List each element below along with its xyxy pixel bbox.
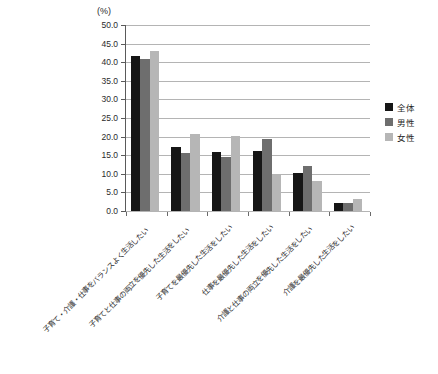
gridline	[126, 62, 370, 63]
y-axis-tick-label: 50.0	[88, 20, 118, 30]
gridline	[126, 137, 370, 138]
y-axis-tick-label: 15.0	[88, 150, 118, 160]
legend: 全体男性女性	[385, 99, 437, 144]
bar	[253, 151, 263, 211]
gridline	[126, 192, 370, 193]
x-axis-tick	[329, 212, 330, 216]
bar	[181, 153, 191, 211]
legend-color-swatch	[385, 103, 393, 111]
bar	[171, 147, 181, 211]
bar	[262, 139, 272, 211]
bar	[272, 175, 282, 211]
x-axis-tick	[289, 212, 290, 216]
bar	[303, 166, 313, 211]
y-axis-tick-label: 0.0	[88, 206, 118, 216]
legend-label: 全体	[397, 101, 415, 113]
bar	[150, 51, 160, 211]
x-axis-tick	[248, 212, 249, 216]
bar	[212, 152, 222, 211]
bar	[131, 56, 141, 211]
x-axis-tick	[207, 212, 208, 216]
x-axis-tick	[370, 212, 371, 216]
y-axis-unit-label: (%)	[97, 6, 111, 16]
bar	[190, 134, 200, 211]
legend-label: 男性	[397, 116, 415, 128]
legend-color-swatch	[385, 118, 393, 126]
y-axis-tick-label: 10.0	[88, 169, 118, 179]
gridline	[126, 44, 370, 45]
gridline	[126, 118, 370, 119]
legend-label: 女性	[397, 131, 415, 143]
y-axis-tick-label: 5.0	[88, 187, 118, 197]
x-axis-tick	[167, 212, 168, 216]
bar	[293, 173, 303, 211]
y-axis-tick-label: 20.0	[88, 132, 118, 142]
legend-item: 女性	[385, 129, 437, 144]
plot-area	[126, 25, 370, 211]
bar	[231, 136, 241, 211]
y-axis-tick-label: 35.0	[88, 76, 118, 86]
y-axis-tick-label: 45.0	[88, 39, 118, 49]
x-axis-category-label: 介護を最優先した生活をしたい	[280, 222, 356, 298]
bar	[334, 203, 344, 211]
bar	[221, 157, 231, 211]
legend-item: 男性	[385, 114, 437, 129]
x-axis-category-label: 仕事を最優先した生活をしたい	[199, 222, 275, 298]
x-axis-category-label: 子育てを最優先した生活をしたい	[153, 222, 234, 303]
y-axis-tick-label: 25.0	[88, 113, 118, 123]
legend-color-swatch	[385, 133, 393, 141]
gridline	[126, 81, 370, 82]
bar-chart: (%) 50.045.040.035.030.025.020.015.010.0…	[0, 0, 438, 374]
gridline	[126, 99, 370, 100]
gridline	[126, 25, 370, 26]
gridline	[126, 174, 370, 175]
bar	[312, 181, 322, 212]
bar	[343, 203, 353, 211]
x-axis-tick	[126, 212, 127, 216]
y-axis-tick-label: 40.0	[88, 57, 118, 67]
y-axis-tick-label: 30.0	[88, 94, 118, 104]
legend-item: 全体	[385, 99, 437, 114]
bar	[140, 59, 150, 211]
bar	[353, 199, 363, 211]
gridline	[126, 155, 370, 156]
